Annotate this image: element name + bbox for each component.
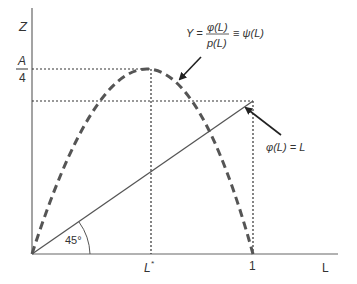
angle-label: 45° — [65, 234, 82, 246]
line-phi-equals-l — [32, 101, 253, 254]
line-label-arrow — [246, 108, 281, 135]
curve-psi — [32, 69, 253, 254]
tick-a4-denominator: 4 — [19, 71, 26, 85]
curve-label-arrow — [180, 57, 201, 79]
curve-label-lhs: Y = — [186, 27, 203, 39]
curve-label-numerator: φ(L) — [207, 21, 228, 33]
x-axis-label: L — [322, 261, 329, 275]
line-label: φ(L) = L — [266, 141, 305, 153]
tick-one: 1 — [249, 259, 256, 273]
tick-lstar: L* — [144, 259, 155, 275]
tick-a4-numerator: A — [17, 54, 26, 68]
curve-label-denominator: p(L) — [206, 37, 227, 49]
y-axis-label: Z — [18, 19, 28, 34]
diagram-canvas: Z L A 4 L* 1 45° Y = φ(L) p(L) ≡ ψ(L) φ(… — [0, 0, 357, 284]
curve-label-rhs: ≡ ψ(L) — [233, 27, 264, 39]
